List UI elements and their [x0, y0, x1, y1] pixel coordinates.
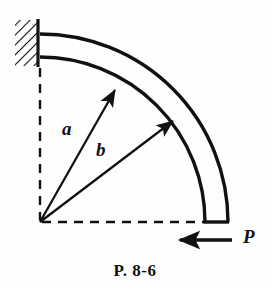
radius-a-label: a — [62, 119, 72, 138]
figure-container: a b P P. 8-6 — [0, 0, 270, 289]
diagram-canvas — [0, 0, 270, 289]
radius-b-label: b — [96, 140, 106, 159]
load-label: P — [243, 227, 255, 246]
curved-beam-inner-arc — [40, 57, 205, 222]
radius-b-arrow — [40, 121, 173, 222]
reference-axes — [40, 68, 206, 222]
figure-caption: P. 8-6 — [0, 261, 270, 281]
radius-arrows — [40, 90, 173, 222]
fixed-support-wall — [15, 19, 38, 67]
